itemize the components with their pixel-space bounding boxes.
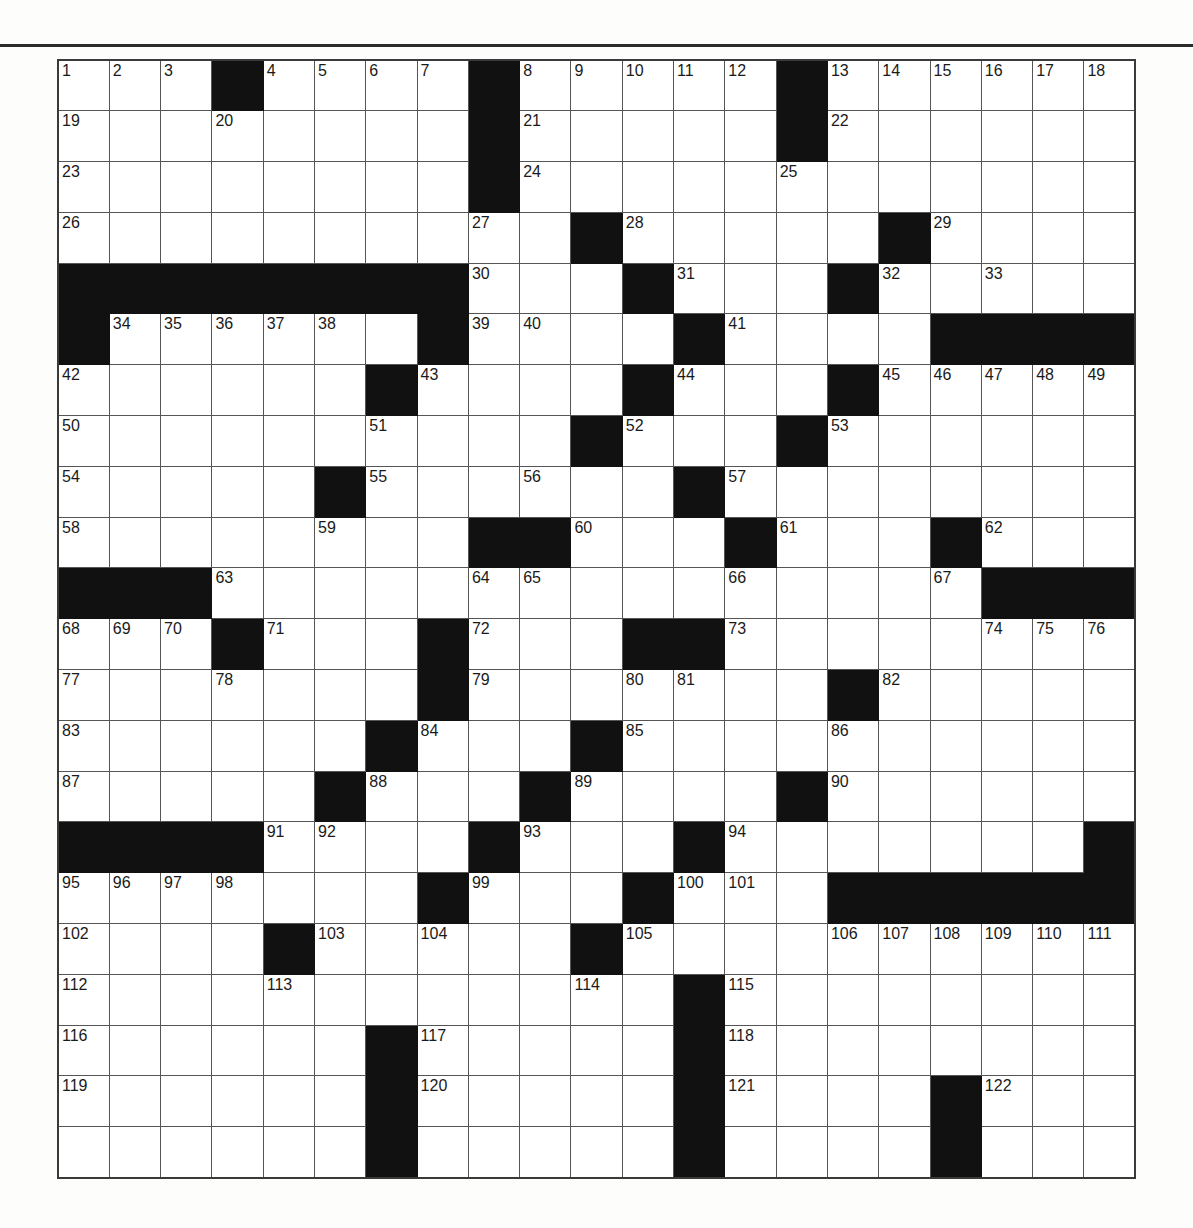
crossword-cell-numbered[interactable]: 36 xyxy=(212,314,263,365)
crossword-cell-numbered[interactable]: 113 xyxy=(263,974,314,1025)
crossword-cell[interactable] xyxy=(981,822,1032,873)
crossword-cell[interactable] xyxy=(366,974,417,1025)
crossword-cell[interactable] xyxy=(622,314,673,365)
crossword-cell[interactable] xyxy=(212,974,263,1025)
crossword-cell[interactable] xyxy=(622,1025,673,1076)
crossword-cell-numbered[interactable]: 25 xyxy=(776,162,827,213)
crossword-cell[interactable] xyxy=(520,1127,571,1178)
crossword-cell[interactable] xyxy=(468,974,519,1025)
crossword-cell-numbered[interactable]: 33 xyxy=(981,263,1032,314)
crossword-cell[interactable] xyxy=(1084,771,1135,822)
crossword-cell[interactable] xyxy=(263,771,314,822)
crossword-cell-numbered[interactable]: 13 xyxy=(827,60,878,111)
crossword-cell[interactable] xyxy=(314,670,365,721)
crossword-cell-numbered[interactable]: 37 xyxy=(263,314,314,365)
crossword-cell-numbered[interactable]: 119 xyxy=(58,1076,109,1127)
crossword-cell-numbered[interactable]: 6 xyxy=(366,60,417,111)
crossword-cell[interactable] xyxy=(674,416,725,467)
crossword-cell[interactable] xyxy=(161,720,212,771)
crossword-cell[interactable] xyxy=(109,1127,160,1178)
crossword-cell[interactable] xyxy=(725,416,776,467)
crossword-cell-numbered[interactable]: 38 xyxy=(314,314,365,365)
crossword-cell-numbered[interactable]: 114 xyxy=(571,974,622,1025)
crossword-cell[interactable] xyxy=(827,1076,878,1127)
crossword-cell[interactable] xyxy=(109,1025,160,1076)
crossword-cell[interactable] xyxy=(263,212,314,263)
crossword-cell-numbered[interactable]: 58 xyxy=(58,517,109,568)
crossword-cell[interactable] xyxy=(981,111,1032,162)
crossword-cell[interactable] xyxy=(520,416,571,467)
crossword-cell[interactable] xyxy=(827,162,878,213)
crossword-grid[interactable]: 1234567891011121314151617181920212223242… xyxy=(57,59,1136,1179)
crossword-cell[interactable] xyxy=(161,1025,212,1076)
crossword-cell[interactable] xyxy=(571,1076,622,1127)
crossword-cell[interactable] xyxy=(1033,720,1084,771)
crossword-cell[interactable] xyxy=(263,111,314,162)
crossword-cell[interactable] xyxy=(468,771,519,822)
crossword-cell[interactable] xyxy=(161,924,212,975)
crossword-cell[interactable] xyxy=(930,771,981,822)
crossword-cell[interactable] xyxy=(161,416,212,467)
crossword-cell-numbered[interactable]: 86 xyxy=(827,720,878,771)
crossword-cell-numbered[interactable]: 12 xyxy=(725,60,776,111)
crossword-cell[interactable] xyxy=(468,720,519,771)
crossword-cell-numbered[interactable]: 32 xyxy=(879,263,930,314)
crossword-cell[interactable] xyxy=(520,1076,571,1127)
crossword-cell[interactable] xyxy=(417,212,468,263)
crossword-cell[interactable] xyxy=(879,771,930,822)
crossword-cell-numbered[interactable]: 54 xyxy=(58,466,109,517)
crossword-cell[interactable] xyxy=(776,1076,827,1127)
crossword-cell[interactable] xyxy=(1084,974,1135,1025)
crossword-cell-numbered[interactable]: 115 xyxy=(725,974,776,1025)
crossword-cell[interactable] xyxy=(1033,111,1084,162)
crossword-cell[interactable] xyxy=(622,162,673,213)
crossword-cell-numbered[interactable]: 59 xyxy=(314,517,365,568)
crossword-cell[interactable] xyxy=(622,1127,673,1178)
crossword-cell-numbered[interactable]: 42 xyxy=(58,365,109,416)
crossword-cell[interactable] xyxy=(212,416,263,467)
crossword-cell-numbered[interactable]: 103 xyxy=(314,924,365,975)
crossword-cell[interactable] xyxy=(776,263,827,314)
crossword-cell[interactable] xyxy=(879,974,930,1025)
crossword-cell[interactable] xyxy=(981,974,1032,1025)
crossword-cell[interactable] xyxy=(1033,517,1084,568)
crossword-cell[interactable] xyxy=(930,111,981,162)
crossword-cell[interactable] xyxy=(776,1025,827,1076)
crossword-cell[interactable] xyxy=(417,974,468,1025)
crossword-cell[interactable] xyxy=(417,1127,468,1178)
crossword-cell[interactable] xyxy=(879,568,930,619)
crossword-cell-numbered[interactable]: 88 xyxy=(366,771,417,822)
crossword-cell[interactable] xyxy=(161,517,212,568)
crossword-cell-numbered[interactable]: 27 xyxy=(468,212,519,263)
crossword-cell[interactable] xyxy=(1033,1025,1084,1076)
crossword-cell[interactable] xyxy=(930,619,981,670)
crossword-cell-numbered[interactable]: 34 xyxy=(109,314,160,365)
crossword-cell-numbered[interactable]: 46 xyxy=(930,365,981,416)
crossword-cell-numbered[interactable]: 111 xyxy=(1084,924,1135,975)
crossword-cell[interactable] xyxy=(622,974,673,1025)
crossword-cell-numbered[interactable]: 121 xyxy=(725,1076,776,1127)
crossword-cell[interactable] xyxy=(109,111,160,162)
crossword-cell[interactable] xyxy=(366,924,417,975)
crossword-cell-numbered[interactable]: 100 xyxy=(674,873,725,924)
crossword-cell-numbered[interactable]: 50 xyxy=(58,416,109,467)
crossword-cell[interactable] xyxy=(674,924,725,975)
crossword-cell[interactable] xyxy=(520,670,571,721)
crossword-cell[interactable] xyxy=(981,670,1032,721)
crossword-cell-numbered[interactable]: 96 xyxy=(109,873,160,924)
crossword-cell[interactable] xyxy=(263,670,314,721)
crossword-cell[interactable] xyxy=(674,568,725,619)
crossword-cell[interactable] xyxy=(725,263,776,314)
crossword-cell[interactable] xyxy=(109,212,160,263)
crossword-cell-numbered[interactable]: 109 xyxy=(981,924,1032,975)
crossword-cell[interactable] xyxy=(263,517,314,568)
crossword-cell[interactable] xyxy=(468,924,519,975)
crossword-cell[interactable] xyxy=(366,619,417,670)
crossword-cell[interactable] xyxy=(520,720,571,771)
crossword-cell[interactable] xyxy=(725,162,776,213)
crossword-cell-numbered[interactable]: 87 xyxy=(58,771,109,822)
crossword-cell-numbered[interactable]: 72 xyxy=(468,619,519,670)
crossword-cell[interactable] xyxy=(468,1076,519,1127)
crossword-cell[interactable] xyxy=(314,365,365,416)
crossword-cell[interactable] xyxy=(417,466,468,517)
